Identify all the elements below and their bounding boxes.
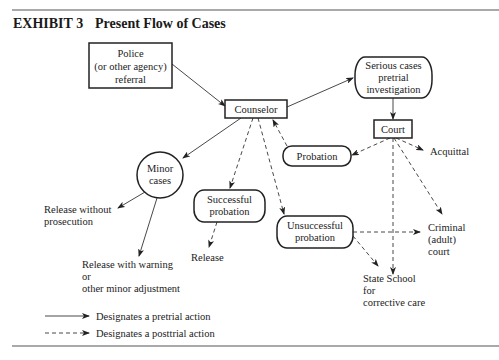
svg-text:cases: cases: [149, 175, 171, 186]
node-successful-probation: Successful probation: [194, 190, 265, 222]
node-counselor: Counselor: [225, 100, 287, 118]
svg-text:(adult): (adult): [428, 234, 456, 246]
svg-text:probation: probation: [295, 232, 336, 243]
outcome-release: Release: [191, 252, 224, 263]
exhibit-label: EXHIBIT 3: [13, 16, 83, 31]
outcome-release-with-warning: Release with warning or other minor adju…: [82, 259, 180, 294]
svg-text:Probation: Probation: [297, 151, 339, 162]
svg-text:Release with warning: Release with warning: [82, 259, 174, 270]
edge-counselor-successful: [230, 118, 253, 188]
svg-text:Serious cases: Serious cases: [365, 60, 421, 71]
svg-text:Release: Release: [191, 252, 224, 263]
edge-successful-release: [209, 222, 217, 247]
svg-text:Criminal: Criminal: [428, 222, 465, 233]
svg-text:prosecution: prosecution: [44, 216, 94, 227]
edge-court-probation: [352, 138, 390, 155]
svg-text:Successful: Successful: [207, 194, 252, 205]
svg-text:(or other agency): (or other agency): [94, 61, 167, 73]
svg-text:Police: Police: [117, 48, 144, 59]
edge-counselor-serious: [287, 78, 353, 107]
svg-text:pretrial: pretrial: [378, 72, 408, 83]
svg-text:probation: probation: [209, 206, 250, 217]
flow-diagram: EXHIBIT 3 Present Flow of Cases Police (…: [0, 0, 499, 360]
exhibit-title: Present Flow of Cases: [95, 16, 226, 31]
node-unsuccessful-probation: Unsuccessful probation: [277, 216, 353, 248]
edge-unsuccessful-stateschool: [353, 236, 378, 266]
edge-counselor-minor: [183, 118, 241, 158]
node-minor-cases: Minor cases: [137, 152, 183, 198]
outcome-acquittal: Acquittal: [430, 146, 469, 157]
svg-text:Acquittal: Acquittal: [430, 146, 469, 157]
edge-minor-release-without: [118, 192, 145, 208]
edge-police-counselor: [172, 64, 225, 106]
svg-text:referral: referral: [115, 74, 146, 85]
svg-text:Release without: Release without: [44, 204, 111, 215]
svg-text:court: court: [428, 246, 450, 257]
svg-text:State School: State School: [363, 273, 416, 284]
svg-text:other minor adjustment: other minor adjustment: [82, 283, 180, 294]
svg-text:for: for: [363, 285, 376, 296]
outcome-release-without-prosecution: Release without prosecution: [44, 204, 111, 227]
edge-court-acquittal: [396, 138, 423, 150]
legend: Designates a pretrial action Designates …: [45, 311, 215, 339]
node-probation: Probation: [283, 146, 351, 166]
node-police: Police (or other agency) referral: [89, 43, 172, 88]
node-serious-cases: Serious cases pretrial investigation: [355, 57, 432, 98]
svg-text:Minor: Minor: [147, 163, 174, 174]
svg-text:Unsuccessful: Unsuccessful: [287, 220, 343, 231]
svg-text:Court: Court: [381, 124, 405, 135]
node-court: Court: [374, 120, 412, 138]
svg-text:or: or: [82, 271, 91, 282]
svg-text:Counselor: Counselor: [234, 104, 278, 115]
legend-posttrial: Designates a posttrial action: [96, 328, 215, 339]
outcome-criminal-court: Criminal (adult) court: [428, 222, 465, 257]
edge-probation-counselor: [273, 120, 287, 146]
edge-minor-release-warning: [139, 198, 157, 256]
outcome-state-school: State School for corrective care: [363, 273, 425, 308]
svg-text:investigation: investigation: [366, 84, 421, 95]
svg-text:corrective care: corrective care: [363, 297, 425, 308]
legend-pretrial: Designates a pretrial action: [96, 311, 211, 322]
